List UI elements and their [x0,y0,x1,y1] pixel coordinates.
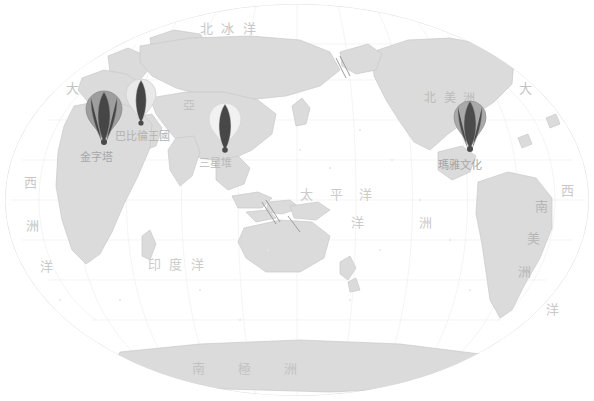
balloon-pin-icon [207,103,243,155]
balloon-pin-icon [124,78,158,128]
marker-sanxingdui-label: 三星堆 [199,154,232,170]
marker-pyramids-label: 金字塔 [80,148,113,164]
marker-babylon[interactable] [124,78,158,128]
world-map-graphic [0,0,594,401]
marker-sanxingdui[interactable] [207,103,243,155]
marker-babylon-label: 巴比倫王國 [115,127,170,143]
marker-maya[interactable] [452,100,488,154]
marker-maya-label: 瑪雅文化 [438,156,482,172]
world-map-canvas: 北 冰 洋 太 平 洋 印 度 洋 西 洋 西 洋 大 洲 亞 北 美 洲 大 … [0,0,594,401]
balloon-pin-icon [452,100,488,154]
